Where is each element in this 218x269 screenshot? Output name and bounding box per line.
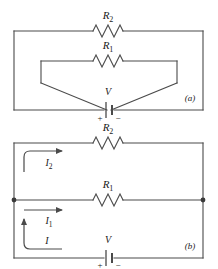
- junction-dot-left: [12, 198, 17, 203]
- i1-subscript: 1: [49, 220, 53, 229]
- battery-plus-sign-panel-b: +: [97, 260, 102, 269]
- r2-subscript-b: 2: [109, 127, 113, 136]
- r2-subscript-a: 2: [109, 15, 113, 24]
- battery-minus-sign-panel-a: −: [115, 113, 120, 123]
- i2-subscript: 2: [49, 162, 53, 171]
- panel-label-b: (b): [185, 241, 196, 251]
- r1-subscript-b: 1: [109, 184, 113, 193]
- r1-subscript-a: 1: [109, 45, 113, 54]
- panel-label-a: (a): [185, 93, 196, 103]
- circuit-figure: R2 R1: [0, 0, 218, 269]
- junction-dot-right: [201, 198, 206, 203]
- battery-minus-sign-panel-b: −: [115, 260, 120, 269]
- current-label-i: I: [44, 235, 49, 246]
- circuit-diagram-svg: R2 R1: [0, 0, 218, 269]
